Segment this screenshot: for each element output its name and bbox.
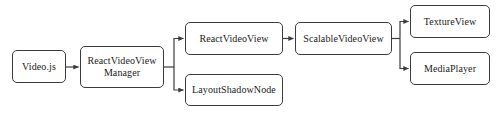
edge-manager-to-layoutshadownode [174,67,184,90]
node-scalablevideoview-label: ScalableVideoView [300,33,386,45]
node-mediaplayer: MediaPlayer [410,52,490,85]
node-reactvideoviewmanager: ReactVideoView Manager [80,46,164,88]
node-reactvideoview-label: ReactVideoView [196,33,271,45]
edge-scalablevideoview-to-mediaplayer [400,39,409,69]
node-reactvideoview: ReactVideoView [185,22,283,55]
node-textureview-label: TextureView [421,16,480,28]
edge-scalablevideoview-to-textureview [392,22,409,39]
node-videojs-label: Video.js [19,61,59,73]
node-layoutshadownode-label: LayoutShadowNode [189,84,279,96]
architecture-diagram: Video.js ReactVideoView Manager ReactVid… [0,0,496,117]
node-videojs: Video.js [12,50,66,83]
edge-manager-to-reactvideoview [164,39,184,68]
node-layoutshadownode: LayoutShadowNode [185,74,283,106]
node-mediaplayer-label: MediaPlayer [421,63,479,75]
node-reactvideoviewmanager-label: ReactVideoView Manager [84,55,159,79]
node-scalablevideoview: ScalableVideoView [295,22,392,55]
node-textureview: TextureView [410,5,490,38]
